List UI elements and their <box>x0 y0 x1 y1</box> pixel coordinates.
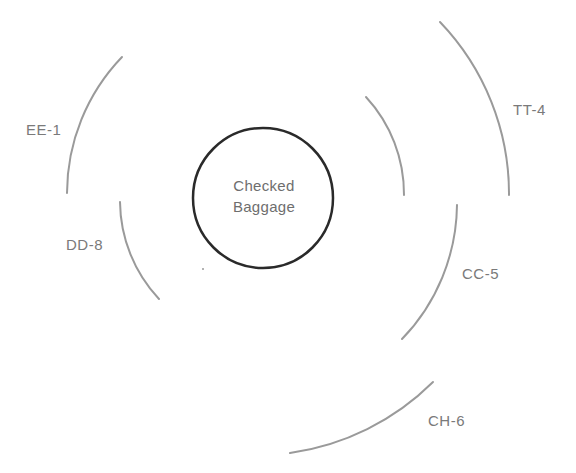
ring-label-ee-1: EE-1 <box>26 122 61 138</box>
ring-label-ch-6: CH-6 <box>428 413 465 429</box>
center-label-line2: Baggage <box>193 196 335 217</box>
ring-label-cc-5: CC-5 <box>462 266 499 282</box>
center-hub-label: Checked Baggage <box>193 175 335 217</box>
stray-dot-marker <box>202 268 204 270</box>
ring-label-tt-4: TT-4 <box>513 102 546 118</box>
ring-label-dd-8: DD-8 <box>66 237 103 253</box>
arc-inner-right <box>366 97 404 195</box>
center-label-line1: Checked <box>193 175 335 196</box>
arc-ee-1 <box>67 57 122 193</box>
arc-dd-8 <box>120 202 159 299</box>
arc-ch-6 <box>290 382 433 453</box>
arc-cc-5 <box>402 205 457 339</box>
arc-tt-4 <box>440 22 509 195</box>
